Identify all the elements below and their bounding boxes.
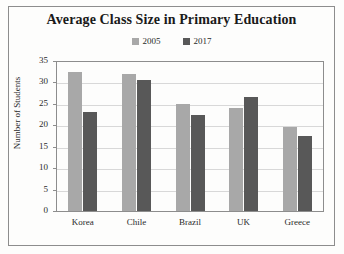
bar-group [122,61,151,211]
chart-page: Average Class Size in Primary Education … [0,0,344,254]
bar-group [176,61,205,211]
x-tick-label-korea: Korea [56,217,110,227]
y-tick-label: 5 [12,184,48,194]
bar-chile-2017 [137,80,151,211]
chart-title: Average Class Size in Primary Education [12,12,331,28]
y-tick-label: 15 [12,141,48,151]
x-tick-label-uk: UK [217,217,271,227]
legend-swatch-2017 [183,38,190,45]
y-tick-label: 20 [12,119,48,129]
legend-item-2005: 2005 [132,36,161,46]
bar-uk-2017 [244,97,258,211]
y-tick-label: 10 [12,162,48,172]
bar-korea-2005 [68,72,82,211]
y-tick-mark [53,211,56,212]
bar-greece-2005 [283,127,297,211]
y-tick-label: 30 [12,76,48,86]
x-tick-label-greece: Greece [270,217,324,227]
legend-swatch-2005 [132,38,139,45]
legend-item-2017: 2017 [183,36,212,46]
bar-korea-2017 [83,112,97,211]
y-tick-label: 0 [12,205,48,215]
bar-group [283,61,312,211]
chart-legend: 2005 2017 [12,36,331,46]
x-tick-label-brazil: Brazil [163,217,217,227]
bar-greece-2017 [298,136,312,211]
bars-layer [56,61,324,211]
y-tick-label: 25 [12,98,48,108]
legend-label-2017: 2017 [194,36,212,46]
bar-group [68,61,97,211]
bar-brazil-2005 [176,104,190,211]
x-tick-label-chile: Chile [110,217,164,227]
bar-brazil-2017 [191,115,205,211]
bar-group [229,61,258,211]
y-tick-label: 35 [12,55,48,65]
bar-chile-2005 [122,74,136,211]
bar-uk-2005 [229,108,243,211]
legend-label-2005: 2005 [143,36,161,46]
